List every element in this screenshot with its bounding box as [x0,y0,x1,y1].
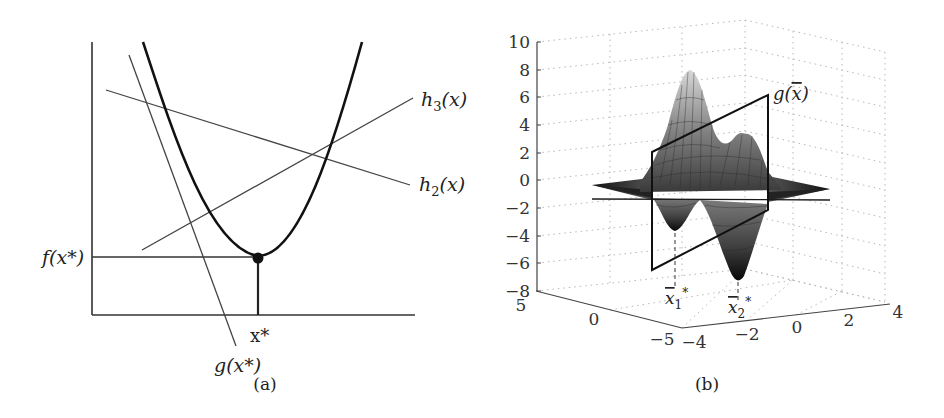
label-f-xstar: f(x*) [40,246,84,268]
svg-text:5: 5 [516,295,527,315]
z-tick-labels: 10 8 6 4 2 0 −2 −4 −6 −8 [505,32,530,301]
svg-text:4: 4 [519,115,530,135]
svg-text:2: 2 [519,143,530,163]
y-tick-labels: 5 0 −5 [516,295,675,349]
panel-b: 10 8 6 4 2 0 −2 −4 −6 −8 5 0 −5 −4 −2 0 … [505,20,903,394]
svg-text:8: 8 [519,60,530,80]
label-h2: h2(x) [419,173,465,199]
label-g-xbar: g(x) [773,83,809,104]
g-line [129,55,236,346]
svg-text:−6: −6 [505,253,530,273]
label-xstar: x* [250,325,269,346]
svg-text:0: 0 [519,170,530,190]
f-parabola [143,42,362,256]
label-g-xstar: g(x*) [214,354,261,376]
svg-text:0: 0 [792,317,803,337]
h3-line [142,98,413,250]
figure: f(x*) x* g(x*) h3(x) h2(x) (a) [0,0,944,418]
svg-text:4: 4 [893,302,904,322]
label-x1star: x1* [665,286,688,312]
caption-b: (b) [695,374,719,394]
svg-text:2: 2 [844,310,855,330]
x-base-axis [682,304,890,328]
h2-line [106,90,410,185]
label-h3: h3(x) [421,88,467,114]
svg-text:10: 10 [508,32,530,52]
minimum-point [253,253,264,264]
svg-text:−4: −4 [505,226,530,246]
svg-text:0: 0 [589,309,600,329]
svg-text:−2: −2 [505,198,530,218]
x-tick-labels: −4 −2 0 2 4 [681,302,903,352]
y-base-axis [536,291,682,328]
svg-text:−4: −4 [681,332,706,352]
svg-text:−5: −5 [649,329,674,349]
svg-text:6: 6 [519,87,530,107]
caption-a: (a) [253,374,276,394]
panel-a: f(x*) x* g(x*) h3(x) h2(x) (a) [40,42,467,394]
label-x2star: x2* [728,295,751,321]
svg-text:−2: −2 [734,324,759,344]
